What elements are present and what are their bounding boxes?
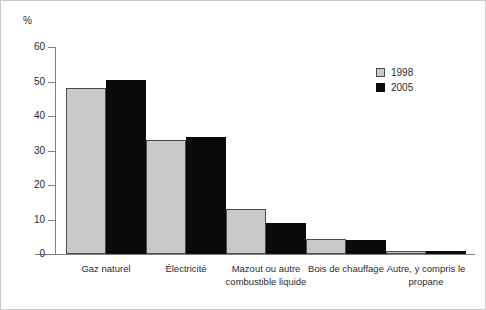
- x-axis-line: [35, 254, 475, 255]
- legend-item-2005: 2005: [376, 80, 413, 95]
- legend-item-1998: 1998: [376, 65, 413, 80]
- y-axis-tick-label-text: 20: [5, 180, 45, 190]
- legend-label-1998: 1998: [391, 68, 413, 78]
- y-axis-tick-mark: [48, 254, 56, 255]
- bar-2005-2: [266, 223, 306, 254]
- bar-2005-0: [106, 80, 146, 254]
- bar-2005-3: [346, 240, 386, 254]
- bar-1998-4: [386, 251, 426, 254]
- bar-1998-3: [306, 239, 346, 254]
- chart-legend: 1998 2005: [376, 65, 413, 95]
- bar-chart-figure: % 0102030405060 Gaz naturelÉlectricitéMa…: [0, 0, 486, 310]
- y-axis-tick-label: 10: [1, 215, 45, 225]
- legend-label-2005: 2005: [391, 83, 413, 93]
- bar-2005-1: [186, 137, 226, 254]
- bar-1998-1: [146, 140, 186, 254]
- y-axis-tick-label: 60: [1, 42, 45, 52]
- legend-swatch-icon-1998: [376, 68, 385, 77]
- y-axis-tick-label-text: 50: [5, 77, 45, 87]
- bar-2005-4: [426, 251, 466, 254]
- y-axis-tick-label: 30: [1, 146, 45, 156]
- y-axis-tick-label: 20: [1, 180, 45, 190]
- bar-1998-2: [226, 209, 266, 254]
- x-axis-label-line: propane: [371, 275, 481, 288]
- legend-swatch-icon-2005: [376, 83, 385, 92]
- y-axis-tick-label: 40: [1, 111, 45, 121]
- y-axis-unit-label: %: [23, 15, 32, 27]
- x-axis-label-line: Autre, y compris le: [371, 262, 481, 275]
- y-axis-tick-label-text: 10: [5, 215, 45, 225]
- y-axis-tick-label-text: 60: [5, 42, 45, 52]
- bar-1998-0: [66, 88, 106, 254]
- y-axis-tick-label-text: 30: [5, 146, 45, 156]
- x-axis-label-line: combustible liquide: [211, 275, 321, 288]
- x-axis-label-4: Autre, y compris lepropane: [371, 262, 481, 288]
- y-axis-tick-label: 0: [1, 249, 45, 259]
- y-axis-tick-label-text: 0: [5, 249, 45, 259]
- y-axis-tick-label: 50: [1, 77, 45, 87]
- y-axis-tick-label-text: 40: [5, 111, 45, 121]
